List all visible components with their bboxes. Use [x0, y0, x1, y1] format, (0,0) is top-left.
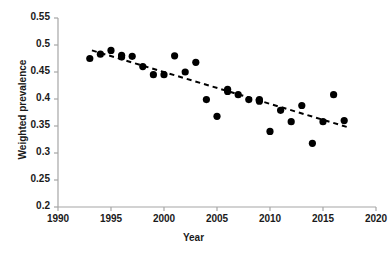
data-point	[235, 91, 242, 98]
data-point	[256, 98, 263, 105]
data-point	[86, 55, 93, 62]
x-tick-label: 2000	[144, 213, 184, 224]
data-point	[298, 102, 305, 109]
data-point	[107, 47, 114, 54]
data-point	[129, 53, 136, 60]
data-point	[224, 88, 231, 95]
y-axis-title: Weighted prevalence	[17, 40, 28, 180]
data-point	[266, 128, 273, 135]
data-points	[86, 47, 348, 147]
data-point	[192, 59, 199, 66]
data-point	[97, 51, 104, 58]
data-point	[171, 52, 178, 59]
data-point	[309, 140, 316, 147]
x-tick-label: 1990	[38, 213, 78, 224]
data-point	[213, 113, 220, 120]
data-point	[150, 71, 157, 78]
data-point	[319, 118, 326, 125]
x-axis-title: Year	[0, 232, 387, 243]
data-point	[330, 91, 337, 98]
data-point	[341, 117, 348, 124]
data-point	[277, 107, 284, 114]
x-tick-label: 2015	[303, 213, 343, 224]
data-point	[182, 68, 189, 75]
axis-lines	[58, 18, 376, 207]
y-tick-label: 0.55	[16, 11, 50, 22]
x-tick-marks	[58, 207, 376, 211]
x-tick-label: 2005	[197, 213, 237, 224]
y-tick-label: 0.2	[16, 200, 50, 211]
data-point	[288, 118, 295, 125]
x-tick-label: 1995	[91, 213, 131, 224]
data-point	[118, 52, 125, 59]
data-point	[203, 96, 210, 103]
x-tick-label: 2010	[250, 213, 290, 224]
data-point	[139, 63, 146, 70]
data-point	[160, 71, 167, 78]
data-point	[245, 96, 252, 103]
x-tick-label: 2020	[356, 213, 392, 224]
